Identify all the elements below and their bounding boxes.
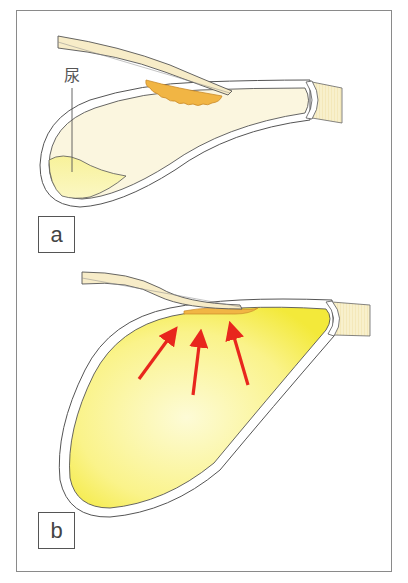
bladder-diagram: [0, 0, 408, 583]
catheter-b: [82, 272, 242, 309]
panel-a: [40, 36, 342, 207]
panel-b: [59, 272, 370, 517]
panel-label-b: b: [38, 512, 75, 549]
panel-label-a: a: [38, 216, 75, 253]
urine-label: 尿: [64, 68, 80, 84]
catheter-lumen-line-a: [58, 42, 230, 93]
catheter-a: [58, 36, 232, 95]
catheter-lumen-line-b: [82, 278, 241, 307]
